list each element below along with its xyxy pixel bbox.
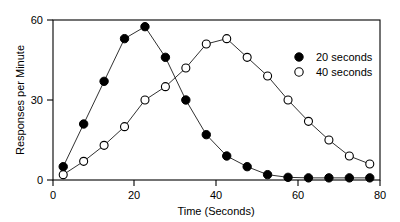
data-point-open-circle: [80, 157, 88, 165]
data-point-filled-circle: [182, 96, 190, 104]
legend-label-20-seconds: 20 seconds: [316, 51, 373, 63]
data-point-filled-circle: [141, 22, 149, 30]
data-point-filled-circle: [366, 174, 374, 182]
data-point-filled-circle: [325, 174, 333, 182]
x-tick-label-60: 60: [292, 189, 304, 201]
data-point-open-circle: [161, 83, 169, 91]
data-point-filled-circle: [263, 170, 271, 178]
data-point-open-circle: [100, 141, 108, 149]
data-point-filled-circle: [243, 162, 251, 170]
data-point-filled-circle: [161, 53, 169, 61]
x-tick-label-40: 40: [210, 189, 222, 201]
data-point-open-circle: [366, 160, 374, 168]
data-point-open-circle: [243, 53, 251, 61]
data-point-filled-circle: [284, 173, 292, 181]
data-point-open-circle: [59, 171, 67, 179]
data-point-open-circle: [284, 96, 292, 104]
data-point-filled-circle: [304, 174, 312, 182]
x-tick-label-80: 80: [374, 189, 386, 201]
chart-background: [0, 0, 400, 222]
y-axis-title: Responses per Minute: [14, 45, 26, 155]
data-point-open-circle: [325, 136, 333, 144]
legend-marker-open-circle-icon: [295, 68, 303, 76]
data-point-filled-circle: [120, 34, 128, 42]
data-point-filled-circle: [59, 162, 67, 170]
data-point-filled-circle: [345, 174, 353, 182]
data-point-open-circle: [182, 64, 190, 72]
chart-figure: 0 30 60 0 20 40 60 80 Time (Seconds) Res…: [0, 0, 400, 222]
data-point-filled-circle: [223, 152, 231, 160]
data-point-open-circle: [223, 35, 231, 43]
data-point-filled-circle: [100, 77, 108, 85]
legend-label-40-seconds: 40 seconds: [316, 66, 373, 78]
responses-per-minute-line-chart: 0 30 60 0 20 40 60 80 Time (Seconds) Res…: [0, 0, 400, 222]
data-point-open-circle: [202, 40, 210, 48]
data-point-filled-circle: [202, 130, 210, 138]
x-tick-label-0: 0: [50, 189, 56, 201]
data-point-open-circle: [304, 117, 312, 125]
y-tick-label-0: 0: [37, 174, 43, 186]
data-point-open-circle: [345, 152, 353, 160]
data-point-open-circle: [264, 72, 272, 80]
data-point-open-circle: [141, 96, 149, 104]
legend-marker-filled-circle-icon: [295, 53, 303, 61]
x-tick-label-20: 20: [128, 189, 140, 201]
data-point-open-circle: [121, 123, 129, 131]
x-axis-title: Time (Seconds): [177, 205, 254, 217]
data-point-filled-circle: [79, 120, 87, 128]
y-tick-label-60: 60: [31, 14, 43, 26]
y-tick-label-30: 30: [31, 94, 43, 106]
